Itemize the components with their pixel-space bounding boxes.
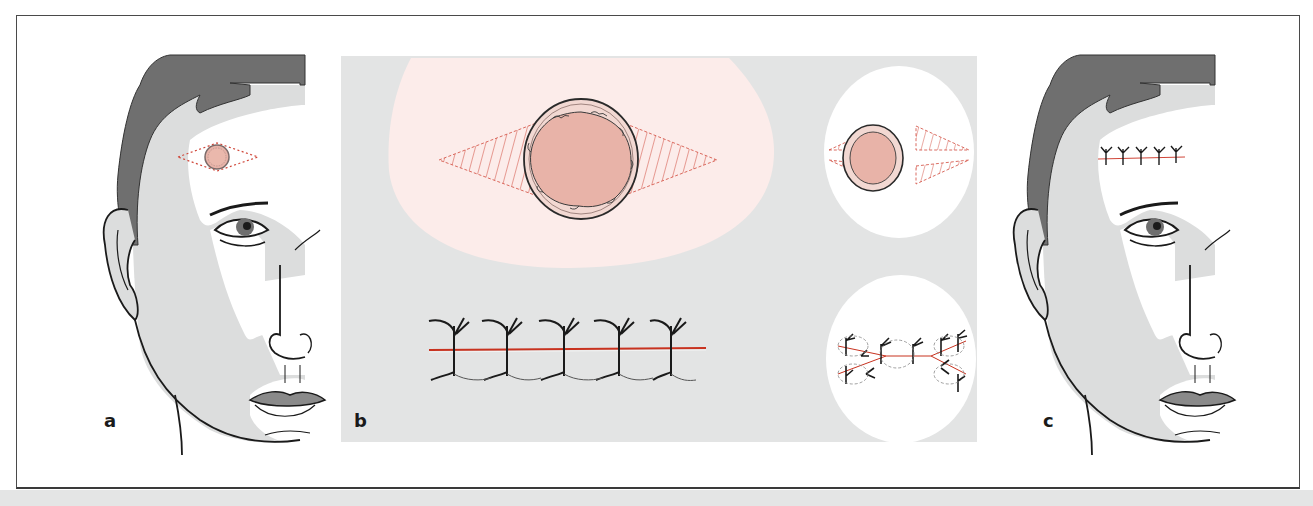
- excision-detail-illustration: [341, 56, 977, 442]
- panel-label-b: b: [354, 410, 367, 431]
- panel-b: [341, 56, 977, 442]
- panel-label-c: c: [1043, 410, 1054, 431]
- face-illustration-c: [1000, 45, 1250, 465]
- bottom-band: [0, 490, 1313, 506]
- panel-c: [1000, 45, 1250, 465]
- panel-a: [90, 45, 340, 465]
- panel-label-a: a: [104, 410, 116, 431]
- face-illustration-a: [90, 45, 340, 465]
